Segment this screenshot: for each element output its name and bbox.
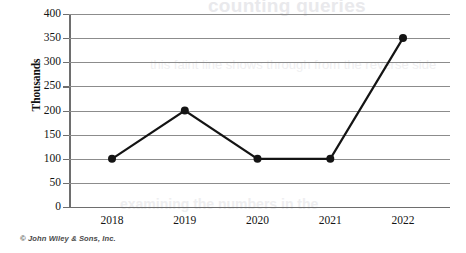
y-axis-tick-label: 250 bbox=[31, 80, 61, 92]
y-axis-tick-label: 150 bbox=[31, 129, 61, 141]
y-axis-tick-label: 350 bbox=[31, 32, 61, 44]
x-axis-tick-labels: 20182019202020212022 bbox=[69, 0, 450, 253]
y-axis-tick-label: 0 bbox=[31, 201, 61, 213]
x-axis-tick-label: 2020 bbox=[228, 214, 288, 226]
x-axis-tick-label: 2019 bbox=[155, 214, 215, 226]
y-axis-tick-label: 50 bbox=[31, 177, 61, 189]
x-axis-tick-label: 2018 bbox=[82, 214, 142, 226]
y-axis-tick-label: 400 bbox=[31, 8, 61, 20]
y-axis-tick-labels: 400350300250200150100500 bbox=[31, 0, 61, 253]
y-axis-tick-label: 300 bbox=[31, 56, 61, 68]
y-axis-tick-label: 100 bbox=[31, 153, 61, 165]
y-axis-tick-label: 200 bbox=[31, 105, 61, 117]
x-axis-tick-label: 2022 bbox=[373, 214, 433, 226]
x-axis-tick-label: 2021 bbox=[300, 214, 360, 226]
copyright-credit: © John Wiley & Sons, Inc. bbox=[20, 234, 116, 243]
line-chart-figure: counting queries this faint line shows t… bbox=[0, 0, 466, 253]
